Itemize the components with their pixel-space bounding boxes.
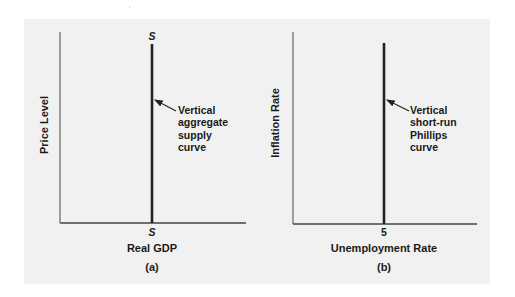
annotation-a-line-1: Vertical <box>178 104 228 116</box>
annotation-a-line-4: curve <box>178 141 228 153</box>
caption-b: (b) <box>377 261 391 273</box>
x-tick-a: S <box>148 226 155 238</box>
annotation-b: Vertical short-run Phillips curve <box>410 104 457 153</box>
annotation-arrow-a <box>155 100 176 111</box>
x-axis-label-a: Real GDP <box>127 242 177 254</box>
x-axis-label-b: Unemployment Rate <box>331 242 437 254</box>
annotation-a-line-3: supply <box>178 129 228 141</box>
annotation-a-line-2: aggregate <box>178 116 228 128</box>
annotation-a: Vertical aggregate supply curve <box>178 104 228 153</box>
y-axis-label-a: Price Level <box>38 96 50 154</box>
annotation-b-line-2: short-run <box>410 116 457 128</box>
curve-top-label-a: S <box>148 30 155 42</box>
y-axis-label-b: Inflation Rate <box>269 88 281 158</box>
x-tick-b: 5 <box>381 226 387 238</box>
annotation-arrow-b <box>387 100 409 111</box>
annotation-b-line-1: Vertical <box>410 104 457 116</box>
annotation-b-line-3: Phillips <box>410 129 457 141</box>
annotation-b-line-4: curve <box>410 141 457 153</box>
caption-a: (a) <box>145 261 158 273</box>
